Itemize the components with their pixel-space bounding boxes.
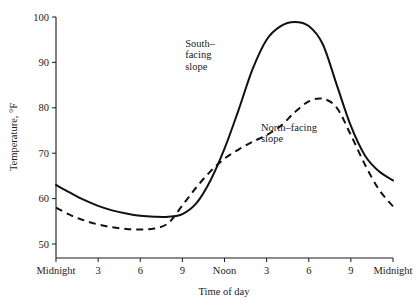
temperature-line-chart: 5060708090100 Midnight369Noon369Midnight… xyxy=(0,0,417,302)
x-tick-label: 9 xyxy=(348,265,353,276)
y-tick-label: 50 xyxy=(39,239,50,250)
x-axis-ticks xyxy=(56,258,393,262)
chart-svg: 5060708090100 Midnight369Noon369Midnight… xyxy=(0,0,417,302)
y-axis-ticks xyxy=(52,17,56,244)
x-tick-label: 3 xyxy=(96,265,101,276)
chart-annotations: South–facingslopeNorth–facingslope xyxy=(185,38,318,144)
x-tick-label: 6 xyxy=(138,265,143,276)
y-tick-label: 90 xyxy=(39,57,50,68)
x-tick-label: 9 xyxy=(180,265,185,276)
chart-axes xyxy=(56,17,393,258)
x-tick-label: Midnight xyxy=(373,265,412,276)
y-tick-label: 80 xyxy=(39,102,50,113)
y-tick-label: 100 xyxy=(33,12,49,23)
north-facing-slope-label: North–facingslope xyxy=(261,122,318,145)
x-tick-label: 6 xyxy=(306,265,311,276)
y-axis-tick-labels: 5060708090100 xyxy=(33,12,49,250)
y-axis-title: Temperature, °F xyxy=(8,103,19,171)
x-axis-tick-labels: Midnight369Noon369Midnight xyxy=(36,265,412,276)
series-north-facing-slope xyxy=(56,98,393,229)
x-tick-label: 3 xyxy=(264,265,269,276)
x-tick-label: Midnight xyxy=(36,265,75,276)
south-facing-slope-label: South–facingslope xyxy=(185,38,216,72)
x-axis-title: Time of day xyxy=(199,286,251,297)
y-tick-label: 70 xyxy=(39,148,50,159)
x-tick-label: Noon xyxy=(213,265,237,276)
y-tick-label: 60 xyxy=(39,193,50,204)
